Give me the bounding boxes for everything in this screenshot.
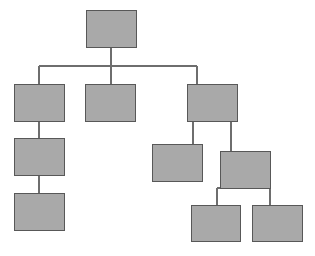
nodes-group	[15, 11, 303, 242]
node-box-n10[interactable]	[253, 206, 303, 242]
node-box-n2[interactable]	[15, 85, 65, 122]
tree-diagram	[0, 0, 315, 256]
node-box-n7[interactable]	[221, 152, 271, 189]
node-box-n3[interactable]	[86, 85, 136, 122]
node-box-n5[interactable]	[15, 139, 65, 176]
diagram-canvas	[0, 0, 315, 256]
node-box-n6[interactable]	[153, 145, 203, 182]
node-box-n9[interactable]	[192, 206, 241, 242]
node-box-n1[interactable]	[87, 11, 137, 48]
node-box-n4[interactable]	[188, 85, 238, 122]
node-box-n8[interactable]	[15, 194, 65, 231]
